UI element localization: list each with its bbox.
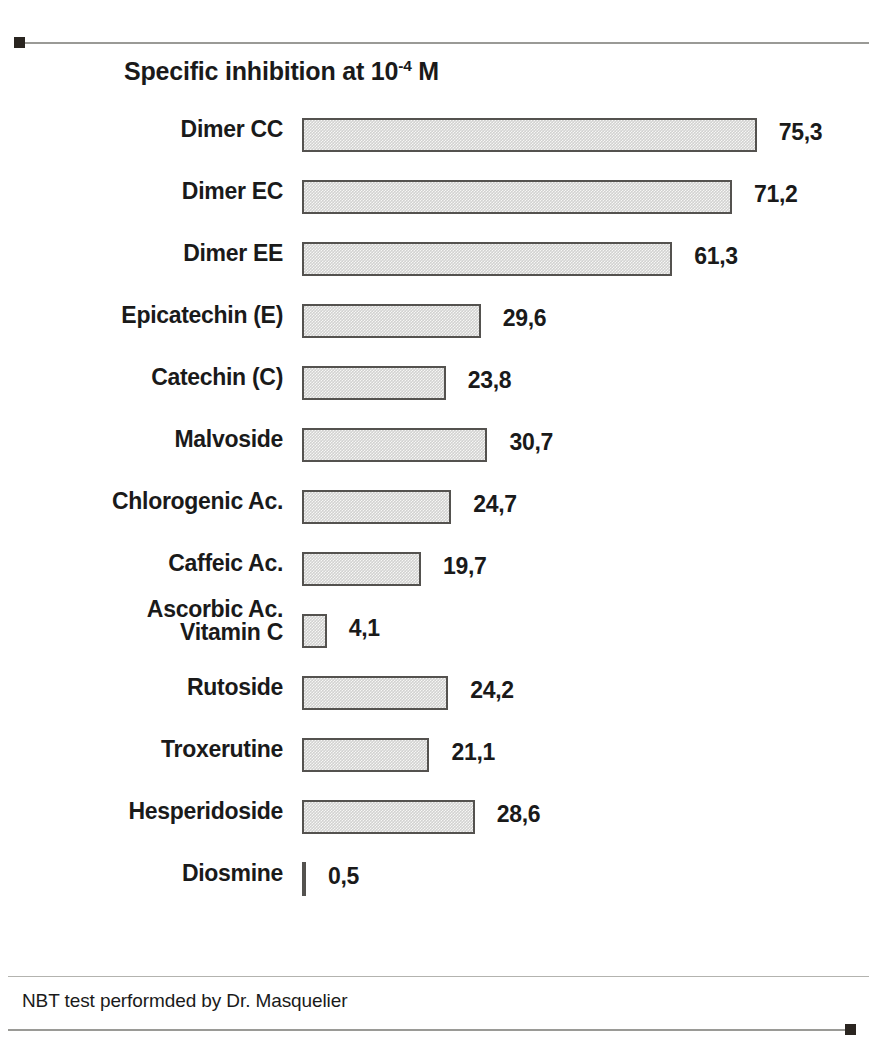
bar-row-label: Dimer EC xyxy=(8,180,283,203)
bar xyxy=(302,676,448,710)
bar-chart-plot-area: Dimer CC75,3Dimer EC71,2Dimer EE61,3Epic… xyxy=(0,118,889,924)
bar-value-label: 21,1 xyxy=(451,739,495,766)
bar-track: 21,1 xyxy=(302,738,889,772)
bar xyxy=(302,242,672,276)
bar-row-label: Dimer EE xyxy=(8,242,283,265)
bar-track: 61,3 xyxy=(302,242,889,276)
bar-row-label: Caffeic Ac. xyxy=(8,552,283,575)
bar-row-label: Ascorbic Ac. Vitamin C xyxy=(8,598,283,645)
bar xyxy=(302,552,421,586)
bar-row: Troxerutine21,1 xyxy=(0,738,889,800)
bar-track: 24,2 xyxy=(302,676,889,710)
bar-value-label: 24,7 xyxy=(473,491,517,518)
bar xyxy=(302,490,451,524)
top-rule xyxy=(20,42,869,44)
chart-title-prefix: Specific inhibition at 10 xyxy=(124,57,398,85)
footer-top-rule xyxy=(8,976,869,977)
bar-row: Dimer EE61,3 xyxy=(0,242,889,304)
chart-page: Specific inhibition at 10-4 M Dimer CC75… xyxy=(0,0,889,1060)
bar-track: 30,7 xyxy=(302,428,889,462)
bar xyxy=(302,738,429,772)
bar-row: Dimer EC71,2 xyxy=(0,180,889,242)
bar-row: Epicatechin (E)29,6 xyxy=(0,304,889,366)
bar-track: 0,5 xyxy=(302,862,889,896)
bottom-rule xyxy=(8,1029,849,1031)
bar-value-label: 4,1 xyxy=(349,615,380,642)
bar-row: Catechin (C)23,8 xyxy=(0,366,889,428)
bar-track: 4,1 xyxy=(302,614,889,648)
bar-row-label: Diosmine xyxy=(8,862,283,885)
bar-value-label: 75,3 xyxy=(779,119,823,146)
bar-value-label: 19,7 xyxy=(443,553,487,580)
top-rule-cap-icon xyxy=(14,37,25,48)
bar-track: 28,6 xyxy=(302,800,889,834)
bar-row: Malvoside30,7 xyxy=(0,428,889,490)
bar xyxy=(302,304,481,338)
bar-track: 24,7 xyxy=(302,490,889,524)
bar-value-label: 0,5 xyxy=(328,863,359,890)
footer-note: NBT test performded by Dr. Masquelier xyxy=(22,990,347,1012)
bottom-rule-cap-icon xyxy=(845,1024,856,1035)
bar-track: 71,2 xyxy=(302,180,889,214)
bar-track: 29,6 xyxy=(302,304,889,338)
bar-row-label: Rutoside xyxy=(8,676,283,699)
bar xyxy=(302,862,306,896)
chart-title-exponent: -4 xyxy=(398,57,411,74)
bar xyxy=(302,118,757,152)
bar-row-label: Malvoside xyxy=(8,428,283,451)
bar-track: 23,8 xyxy=(302,366,889,400)
bar-row: Chlorogenic Ac.24,7 xyxy=(0,490,889,552)
bar-value-label: 28,6 xyxy=(497,801,541,828)
bar-value-label: 29,6 xyxy=(503,305,547,332)
bar-track: 19,7 xyxy=(302,552,889,586)
bar-row-label: Epicatechin (E) xyxy=(8,304,283,327)
bar-track: 75,3 xyxy=(302,118,889,152)
bar-row-label: Dimer CC xyxy=(8,118,283,141)
bar-row: Ascorbic Ac. Vitamin C4,1 xyxy=(0,614,889,676)
bar-row: Hesperidoside28,6 xyxy=(0,800,889,862)
bar-row-label: Chlorogenic Ac. xyxy=(8,490,283,513)
bar xyxy=(302,428,487,462)
bar-row: Dimer CC75,3 xyxy=(0,118,889,180)
bar-row-label: Troxerutine xyxy=(8,738,283,761)
bar-value-label: 24,2 xyxy=(470,677,514,704)
bar-row: Rutoside24,2 xyxy=(0,676,889,738)
chart-title: Specific inhibition at 10-4 M xyxy=(124,57,439,86)
bar xyxy=(302,614,327,648)
bar-value-label: 61,3 xyxy=(694,243,738,270)
bar-value-label: 71,2 xyxy=(754,181,798,208)
bar-value-label: 23,8 xyxy=(468,367,512,394)
bar-row-label: Hesperidoside xyxy=(8,800,283,823)
bar xyxy=(302,800,475,834)
chart-title-suffix: M xyxy=(412,57,439,85)
bar-row-label: Catechin (C) xyxy=(8,366,283,389)
bar xyxy=(302,366,446,400)
bar xyxy=(302,180,732,214)
bar-row: Diosmine0,5 xyxy=(0,862,889,924)
bar-value-label: 30,7 xyxy=(509,429,553,456)
